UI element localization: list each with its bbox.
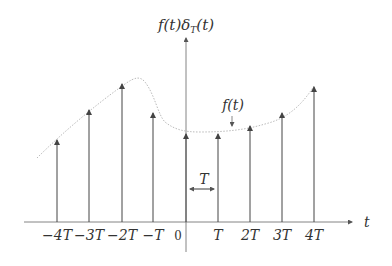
diagram-svg: T f(t) f(t)δT(t) t −4T −3T −2T −T 0 T 2T… bbox=[0, 0, 392, 266]
envelope-curve bbox=[37, 78, 314, 158]
tick-negT: −T bbox=[142, 227, 165, 243]
period-label: T bbox=[199, 171, 210, 187]
graph-title: f(t)δT(t) bbox=[157, 16, 214, 35]
tick-2T: 2T bbox=[240, 227, 261, 243]
tick-3T: 3T bbox=[273, 227, 293, 243]
sampling-diagram: T f(t) f(t)δT(t) t −4T −3T −2T −T 0 T 2T… bbox=[0, 0, 392, 266]
x-axis-label: t bbox=[364, 214, 370, 230]
tick-T: T bbox=[213, 227, 224, 243]
curve-label: f(t) bbox=[221, 97, 244, 113]
impulses bbox=[57, 84, 314, 222]
tick-0: 0 bbox=[175, 228, 182, 243]
tick-neg4T: −4T bbox=[42, 227, 74, 243]
tick-4T: 4T bbox=[304, 227, 325, 243]
tick-labels: −4T −3T −2T −T 0 T 2T 3T 4T bbox=[42, 227, 325, 243]
tick-neg3T: −3T bbox=[74, 227, 106, 243]
tick-neg2T: −2T bbox=[107, 227, 139, 243]
